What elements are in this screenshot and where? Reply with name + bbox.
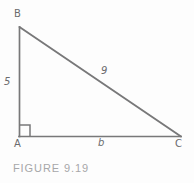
vertex-label-c: C bbox=[175, 139, 182, 149]
figure-container: B A C 5 9 b FIGURE 9.19 bbox=[0, 0, 194, 183]
side-length-label-ac: b bbox=[98, 138, 104, 148]
segment-bc-hypotenuse bbox=[20, 27, 182, 137]
side-length-label-ab: 5 bbox=[4, 77, 10, 87]
side-length-label-bc: 9 bbox=[101, 66, 107, 76]
figure-caption: FIGURE 9.19 bbox=[13, 162, 89, 174]
right-angle-marker-icon bbox=[20, 125, 31, 137]
vertex-label-a: A bbox=[14, 139, 21, 149]
right-triangle-diagram bbox=[0, 0, 194, 183]
vertex-label-b: B bbox=[14, 9, 21, 19]
